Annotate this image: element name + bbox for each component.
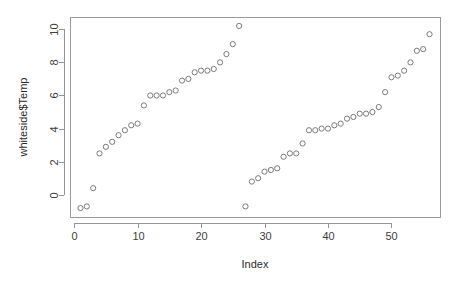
x-tick-label: 50: [385, 230, 397, 242]
x-tick-label: 10: [132, 230, 144, 242]
y-tick-label: 6: [48, 92, 60, 98]
x-axis-title: Index: [242, 258, 269, 270]
y-tick-label: 4: [48, 126, 60, 132]
r-scatter-plot: 01020304050 0246810 Index whiteside$Temp: [0, 0, 460, 289]
y-tick-label: 10: [48, 23, 60, 35]
y-tick-label: 2: [48, 159, 60, 165]
y-tick-label: 8: [48, 59, 60, 65]
y-tick-label: 0: [48, 192, 60, 198]
x-tick-label: 40: [322, 230, 334, 242]
x-tick-label: 30: [259, 230, 271, 242]
plot-canvas: 01020304050 0246810 Index whiteside$Temp: [0, 0, 460, 289]
x-tick-label: 20: [195, 230, 207, 242]
x-tick-label: 0: [71, 230, 77, 242]
y-axis-title: whiteside$Temp: [17, 78, 29, 158]
